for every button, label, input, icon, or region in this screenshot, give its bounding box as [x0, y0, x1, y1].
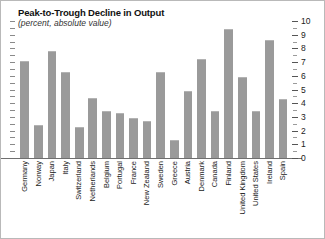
bar[interactable] [197, 59, 206, 158]
bar[interactable] [143, 121, 152, 158]
bar[interactable] [88, 98, 97, 158]
bar[interactable] [34, 125, 43, 158]
x-axis-tick-label: Austria [184, 161, 192, 184]
left-axis-tick [10, 21, 15, 22]
bar-slot [59, 21, 73, 158]
bar-slot [263, 21, 277, 158]
x-axis-tick-label: Sweden [157, 161, 165, 188]
x-axis-label-slot: Switzerland [72, 161, 86, 237]
bar-slot [181, 21, 195, 158]
bar[interactable] [116, 113, 125, 158]
x-axis-tick-label: New Zealand [143, 161, 151, 205]
bar[interactable] [61, 72, 70, 158]
y-axis-minor-tick [293, 69, 297, 70]
bar-slot [100, 21, 114, 158]
plot-area [18, 21, 290, 158]
left-axis-tick [10, 35, 15, 36]
left-axis-tick [10, 144, 15, 145]
bar[interactable] [279, 99, 288, 158]
y-axis-tick [292, 48, 298, 49]
bar-slot [45, 21, 59, 158]
chart-figure: Peak-to-Trough Decline in Output (percen… [0, 0, 325, 239]
y-axis-tick-label: 8 [301, 44, 306, 53]
x-axis-label-slot: Portugal [113, 161, 127, 237]
y-axis-minor-tick [293, 124, 297, 125]
bar-slot [127, 21, 141, 158]
x-axis-tick-label: Ireland [266, 161, 274, 184]
bar[interactable] [156, 72, 165, 158]
x-axis-label-slot: Finland [222, 161, 236, 237]
x-axis-tick-label: Switzerland [75, 161, 83, 200]
bar[interactable] [75, 127, 84, 159]
y-axis-tick-label: 10 [301, 17, 310, 26]
bar[interactable] [48, 51, 57, 158]
y-axis: 012345678910 [292, 21, 325, 158]
x-axis-label-slot: United Kingdom [236, 161, 250, 237]
x-axis-label-slot: Austria [181, 161, 195, 237]
left-tick-marks [10, 21, 17, 158]
bar-slot [222, 21, 236, 158]
bar-slot [154, 21, 168, 158]
bar[interactable] [20, 61, 29, 158]
x-axis-label-slot: Italy [59, 161, 73, 237]
y-axis-minor-tick [293, 42, 297, 43]
bar[interactable] [252, 111, 261, 158]
left-axis-tick [10, 55, 15, 56]
x-axis-tick-label: Portugal [116, 161, 124, 189]
left-axis-tick [10, 137, 15, 138]
bar-slot [32, 21, 46, 158]
y-axis-tick [292, 144, 298, 145]
y-axis-tick-label: 4 [301, 99, 306, 108]
bar-slot [168, 21, 182, 158]
bar-slot [236, 21, 250, 158]
y-axis-tick [292, 90, 298, 91]
left-axis-tick [10, 151, 15, 152]
bar[interactable] [184, 91, 193, 158]
x-axis-tick-label: Belgium [103, 161, 111, 188]
bar-slot [208, 21, 222, 158]
x-axis-label-slot: United States [249, 161, 263, 237]
bar-slot [276, 21, 290, 158]
y-axis-tick [292, 21, 298, 22]
y-axis-minor-tick [293, 96, 297, 97]
left-axis-tick [10, 69, 15, 70]
x-axis-label-slot: Greece [168, 161, 182, 237]
y-axis-minor-tick [293, 151, 297, 152]
x-axis-label-slot: Sweden [154, 161, 168, 237]
bar[interactable] [170, 140, 179, 158]
x-axis-tick-label: Denmark [198, 161, 206, 191]
x-axis-tick-label: Norway [35, 161, 43, 186]
y-axis-tick [292, 158, 298, 159]
bar[interactable] [102, 111, 111, 158]
left-axis-tick [10, 96, 15, 97]
y-axis-tick-label: 6 [301, 72, 306, 81]
y-axis-tick-label: 9 [301, 30, 306, 39]
x-axis-tick-label: Germany [21, 161, 29, 192]
y-axis-tick [292, 117, 298, 118]
bar[interactable] [265, 40, 274, 158]
y-axis-minor-tick [293, 28, 297, 29]
left-axis-tick [10, 131, 15, 132]
bar-slot [113, 21, 127, 158]
left-axis-tick [10, 124, 15, 125]
bar[interactable] [211, 111, 220, 158]
bar-slot [86, 21, 100, 158]
left-axis-tick [10, 83, 15, 84]
x-axis-label-slot: Japan [45, 161, 59, 237]
left-axis-tick [10, 110, 15, 111]
x-axis-tick-label: Japan [48, 161, 56, 181]
y-axis-minor-tick [293, 137, 297, 138]
x-axis-tick-label: Greece [171, 161, 179, 186]
x-axis-label-slot: Denmark [195, 161, 209, 237]
left-axis-tick [10, 103, 15, 104]
y-axis-tick [292, 103, 298, 104]
y-axis-tick [292, 35, 298, 36]
bar[interactable] [224, 29, 233, 158]
left-axis-tick [10, 117, 15, 118]
bar[interactable] [129, 118, 138, 158]
bar[interactable] [238, 77, 247, 158]
y-axis-tick-label: 7 [301, 58, 306, 67]
left-axis-tick [10, 90, 15, 91]
y-axis-tick-label: 2 [301, 126, 306, 135]
y-axis-tick [292, 131, 298, 132]
